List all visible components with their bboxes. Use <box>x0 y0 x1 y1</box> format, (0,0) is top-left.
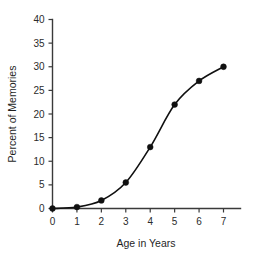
x-tick-label: 3 <box>123 216 129 227</box>
y-tick-label: 10 <box>33 156 45 167</box>
x-tick-label: 4 <box>147 216 153 227</box>
x-axis-title: Age in Years <box>117 237 176 249</box>
y-axis-title: Percent of Memories <box>6 66 18 163</box>
data-point <box>98 198 104 204</box>
y-tick-label: 0 <box>39 203 45 214</box>
series-line-path <box>53 67 224 209</box>
y-tick-label: 35 <box>33 38 45 49</box>
x-tick-label: 0 <box>50 216 56 227</box>
data-point <box>123 180 129 186</box>
x-axis-tick-labels: 01234567 <box>50 216 227 227</box>
y-tick-label: 15 <box>33 132 45 143</box>
x-axis: 01234567 <box>50 209 241 227</box>
line-chart: 0510152025303540 01234567 Age in Years P… <box>0 0 254 258</box>
data-point <box>221 64 227 70</box>
data-point <box>147 144 153 150</box>
x-tick-label: 5 <box>172 216 178 227</box>
data-point <box>50 206 56 212</box>
data-point <box>196 78 202 84</box>
data-point <box>74 204 80 210</box>
y-axis: 0510152025303540 <box>33 14 52 214</box>
y-tick-label: 40 <box>33 14 45 25</box>
series-markers <box>50 64 227 212</box>
data-series <box>50 64 227 212</box>
x-tick-label: 6 <box>196 216 202 227</box>
y-tick-label: 5 <box>39 179 45 190</box>
y-tick-label: 30 <box>33 61 45 72</box>
data-point <box>172 102 178 108</box>
y-tick-label: 25 <box>33 85 45 96</box>
x-tick-label: 1 <box>74 216 80 227</box>
y-tick-label: 20 <box>33 109 45 120</box>
x-tick-label: 2 <box>99 216 105 227</box>
x-tick-label: 7 <box>221 216 227 227</box>
chart-container: 0510152025303540 01234567 Age in Years P… <box>0 0 254 258</box>
y-axis-tick-labels: 0510152025303540 <box>33 14 45 214</box>
